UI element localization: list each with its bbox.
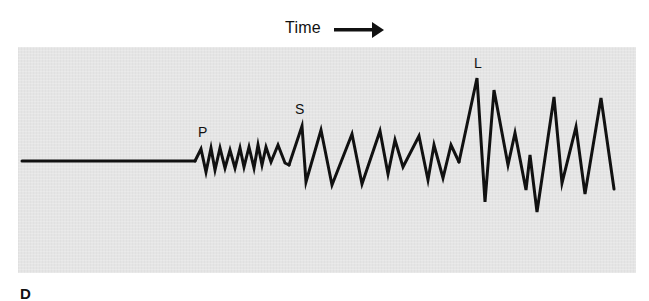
trace-l-waves [459,78,614,212]
panel-letter: D [20,285,31,301]
p-wave-label: P [198,124,207,140]
seismogram-trace-svg [0,0,649,301]
l-wave-label: L [474,55,482,71]
trace-p-waves [195,145,289,172]
s-wave-label: S [295,101,304,117]
trace-s-waves [289,126,459,185]
seismogram-figure: Time P S L D [0,0,649,301]
